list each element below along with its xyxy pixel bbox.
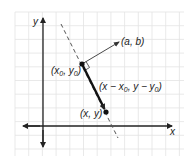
point-x-y-label: (x, y) <box>80 108 102 119</box>
point-x-y <box>103 109 108 114</box>
line-normal-vector-diagram: y x (a, b) (x0, y0) (x − x0, y − y0) (x,… <box>0 0 194 168</box>
right-angle-marker <box>86 62 90 71</box>
difference-vector-label: (x − x0, y − y0) <box>99 81 162 93</box>
y-axis-label: y <box>32 16 39 27</box>
normal-vector-label: (a, b) <box>121 36 144 47</box>
x-axis-label: x <box>169 126 176 137</box>
